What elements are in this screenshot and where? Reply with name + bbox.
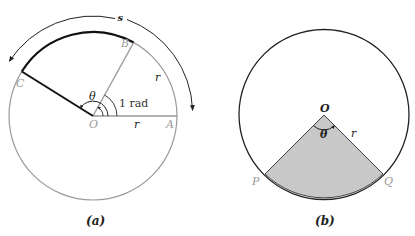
label-point-c: C xyxy=(16,77,25,90)
caption-a: (a) xyxy=(86,214,105,228)
label-s: s xyxy=(118,12,124,23)
label-center-o-a: O xyxy=(89,118,98,131)
label-radius-r-oa: r xyxy=(134,118,140,131)
label-theta-a: θ xyxy=(89,90,96,103)
one-rad-arc-inner xyxy=(98,107,103,116)
label-point-b: B xyxy=(120,37,129,50)
figure-b: O θ r P Q (b) xyxy=(239,30,409,229)
label-point-q: Q xyxy=(384,175,393,188)
radius-oc xyxy=(22,72,93,117)
figure-a: s θ 1 rad A B C O r r (a) xyxy=(9,12,193,228)
arc-bc-thick xyxy=(22,32,134,71)
label-point-a: A xyxy=(165,118,174,131)
label-center-o-b: O xyxy=(320,102,330,115)
label-radius-r-arc: r xyxy=(155,71,161,84)
label-theta-b: θ xyxy=(320,128,328,141)
label-point-p: P xyxy=(251,175,260,188)
one-rad-arc-outer xyxy=(105,95,117,116)
label-radius-r-b: r xyxy=(351,127,357,140)
caption-b: (b) xyxy=(315,214,335,228)
label-one-rad: 1 rad xyxy=(119,97,148,110)
diagram-canvas: s θ 1 rad A B C O r r (a) O θ r P Q (b) xyxy=(0,0,415,236)
